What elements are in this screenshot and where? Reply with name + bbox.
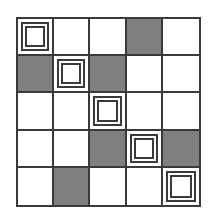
grid-cell-target[interactable] [18, 19, 54, 56]
grid-cell-target[interactable] [90, 93, 126, 130]
grid-cell-white[interactable] [54, 19, 90, 56]
grid-cell-gray[interactable] [163, 131, 199, 168]
grid-cell-white[interactable] [127, 56, 163, 93]
grid-cell-white[interactable] [90, 19, 126, 56]
grid-cell-target[interactable] [127, 131, 163, 168]
double-square-marker-icon [93, 96, 121, 125]
double-square-marker-icon [57, 59, 85, 88]
double-square-marker-icon [130, 134, 158, 163]
grid-cell-white[interactable] [127, 93, 163, 130]
grid-cell-white[interactable] [54, 93, 90, 130]
double-square-marker-icon [166, 171, 196, 202]
grid-cell-gray[interactable] [127, 19, 163, 56]
grid-cell-white[interactable] [163, 93, 199, 130]
puzzle-grid [16, 17, 201, 207]
grid-cell-gray[interactable] [90, 131, 126, 168]
grid-cell-white[interactable] [18, 168, 54, 205]
grid-cell-white[interactable] [18, 93, 54, 130]
grid-cell-gray[interactable] [18, 56, 54, 93]
grid-cell-gray[interactable] [54, 168, 90, 205]
grid-cell-target[interactable] [54, 56, 90, 93]
double-square-marker-icon [21, 22, 49, 51]
grid-cell-target[interactable] [163, 168, 199, 205]
grid-cell-white[interactable] [163, 56, 199, 93]
grid-cell-gray[interactable] [90, 56, 126, 93]
grid-cell-white[interactable] [54, 131, 90, 168]
grid-cell-white[interactable] [127, 168, 163, 205]
grid-cell-white[interactable] [18, 131, 54, 168]
grid-cell-white[interactable] [163, 19, 199, 56]
grid-cell-white[interactable] [90, 168, 126, 205]
